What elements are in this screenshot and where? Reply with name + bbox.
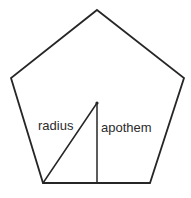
geometry-figure	[0, 0, 191, 198]
center-point-dot	[95, 101, 98, 104]
radius-label: radius	[38, 119, 73, 132]
pentagon-diagram: radius apothem	[0, 0, 191, 198]
apothem-label: apothem	[101, 121, 152, 134]
